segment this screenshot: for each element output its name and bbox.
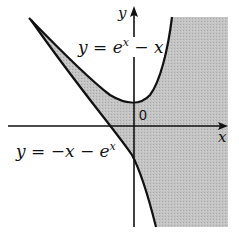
lower-label-prefix: y = −x − e [16,141,110,161]
lower-label-exponent: x [110,140,116,153]
origin-label: 0 [139,107,147,123]
lower-curve-label: y = −x − ex [16,141,116,161]
upper-label-suffix: − x [129,37,164,57]
upper-label-prefix: y = e [78,37,123,57]
y-axis-label: y [118,4,126,22]
diagram-canvas [0,0,239,235]
x-axis-label: x [218,128,226,146]
upper-curve-label: y = ex − x [78,37,164,57]
